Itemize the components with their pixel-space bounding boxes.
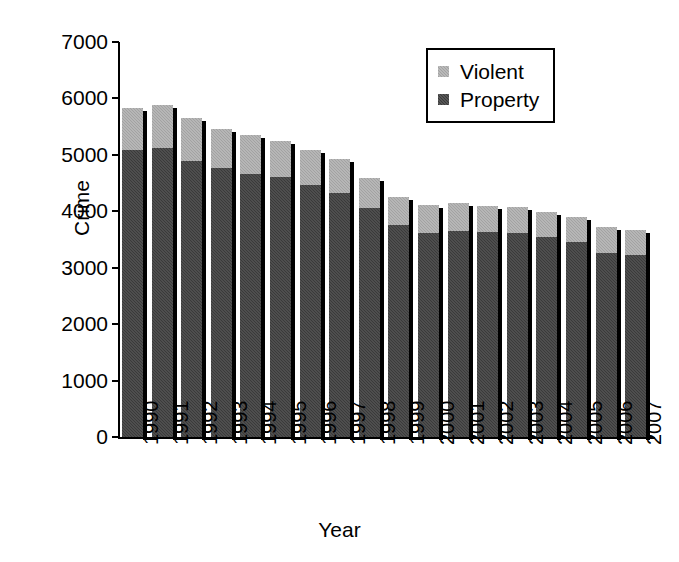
bar-1998 (359, 178, 380, 437)
bar-shadow (202, 121, 206, 440)
bar-segment-violent (477, 206, 498, 232)
bar-1995 (270, 141, 291, 437)
bar-segment-property (270, 177, 291, 437)
bar-shadow (321, 153, 325, 440)
bar-segment-property (240, 174, 261, 437)
plot-area (120, 42, 655, 437)
y-axis-tick-label: 7000 (46, 31, 108, 52)
bar-1990 (122, 108, 143, 437)
chart-legend: ViolentProperty (426, 48, 555, 123)
bar-segment-violent (181, 118, 202, 161)
bar-chart: Crime 70006000500040003000200010000 1990… (0, 0, 679, 562)
bar-segment-property (181, 161, 202, 438)
bar-segment-violent (625, 230, 646, 255)
bar-segment-violent (388, 197, 409, 225)
bar-segment-violent (507, 207, 528, 232)
bar-1996 (300, 150, 321, 437)
bar-segment-violent (448, 203, 469, 231)
bar-segment-violent (329, 159, 350, 193)
y-axis-tick-label: 6000 (46, 87, 108, 108)
bar-segment-violent (152, 105, 173, 148)
bar-segment-violent (596, 227, 617, 253)
bar-1991 (152, 105, 173, 437)
bar-segment-violent (418, 205, 439, 233)
y-axis-tick-label: 3000 (46, 257, 108, 278)
bar-segment-violent (122, 108, 143, 150)
bar-segment-violent (300, 150, 321, 185)
bar-shadow (173, 108, 177, 440)
bar-segment-violent (359, 178, 380, 208)
bar-segment-property (211, 168, 232, 437)
y-axis-tick-label: 0 (46, 426, 108, 447)
y-axis-tick-label: 5000 (46, 144, 108, 165)
bar-segment-violent (211, 129, 232, 168)
bar-segment-violent (240, 135, 261, 175)
bar-segment-property (152, 148, 173, 437)
bar-shadow (261, 138, 265, 440)
bar-1993 (211, 129, 232, 437)
legend-item-property: Property (438, 85, 539, 113)
x-axis-title: Year (0, 518, 679, 542)
bar-shadow (143, 111, 147, 440)
bar-shadow (291, 144, 295, 440)
bar-segment-violent (536, 212, 557, 237)
bar-1997 (329, 159, 350, 437)
bar-1994 (240, 135, 261, 437)
y-axis-tick-labels: 70006000500040003000200010000 (46, 0, 108, 562)
y-axis-tick-label: 4000 (46, 200, 108, 221)
y-axis-tick-label: 2000 (46, 313, 108, 334)
legend-swatch-violent (438, 66, 449, 77)
legend-label: Property (460, 89, 539, 110)
bar-shadow (350, 162, 354, 440)
bar-shadow (232, 132, 236, 440)
legend-item-violent: Violent (438, 57, 539, 85)
bar-segment-property (122, 150, 143, 437)
bar-segment-violent (270, 141, 291, 177)
bar-segment-violent (566, 217, 587, 242)
bar-1992 (181, 118, 202, 437)
legend-label: Violent (460, 61, 524, 82)
bar-segment-property (300, 185, 321, 437)
legend-swatch-property (438, 94, 449, 105)
y-axis-tick-label: 1000 (46, 370, 108, 391)
